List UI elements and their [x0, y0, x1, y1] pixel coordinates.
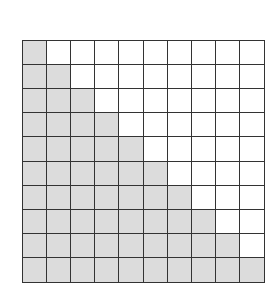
grid-cell-shaded	[47, 113, 71, 137]
hundred-grid	[22, 40, 265, 283]
grid-cell-shaded	[23, 258, 47, 282]
grid-cell-shaded	[95, 113, 119, 137]
grid-cell-empty	[216, 41, 240, 65]
grid-cell-empty	[240, 41, 264, 65]
grid-cell-shaded	[119, 137, 143, 161]
grid-cell-shaded	[23, 89, 47, 113]
grid-cell-empty	[71, 65, 95, 89]
grid-cell-empty	[216, 89, 240, 113]
grid-cell-empty	[168, 89, 192, 113]
grid-cell-shaded	[47, 65, 71, 89]
grid-cell-shaded	[119, 258, 143, 282]
grid-cell-shaded	[144, 234, 168, 258]
grid-cell-shaded	[119, 186, 143, 210]
grid-cell-empty	[168, 65, 192, 89]
grid-cell-shaded	[95, 258, 119, 282]
grid-cell-empty	[192, 137, 216, 161]
grid-cell-empty	[240, 186, 264, 210]
grid-cell-empty	[192, 186, 216, 210]
grid-cell-empty	[240, 89, 264, 113]
grid-cell-shaded	[168, 234, 192, 258]
grid-cell-shaded	[47, 210, 71, 234]
grid-cell-shaded	[71, 162, 95, 186]
grid-cell-empty	[71, 41, 95, 65]
grid-cell-empty	[119, 65, 143, 89]
grid-cell-shaded	[192, 210, 216, 234]
grid-cell-empty	[95, 41, 119, 65]
grid-cell-shaded	[47, 234, 71, 258]
grid-cell-empty	[216, 210, 240, 234]
grid-cell-shaded	[95, 186, 119, 210]
grid-cell-shaded	[71, 89, 95, 113]
grid-cell-shaded	[71, 113, 95, 137]
grid-cell-shaded	[47, 137, 71, 161]
grid-cell-empty	[192, 113, 216, 137]
grid-cell-empty	[144, 89, 168, 113]
grid-cell-shaded	[144, 258, 168, 282]
grid-cell-empty	[192, 41, 216, 65]
grid-cell-shaded	[192, 234, 216, 258]
grid-cell-empty	[240, 210, 264, 234]
grid-cell-empty	[168, 113, 192, 137]
grid-cell-empty	[216, 186, 240, 210]
grid-cell-empty	[192, 89, 216, 113]
grid-cell-shaded	[240, 258, 264, 282]
grid-cell-shaded	[47, 162, 71, 186]
grid-cell-shaded	[23, 186, 47, 210]
grid-cell-empty	[168, 41, 192, 65]
grid-cell-empty	[240, 162, 264, 186]
grid-cell-shaded	[168, 186, 192, 210]
grid-cell-shaded	[71, 210, 95, 234]
grid-cell-shaded	[144, 210, 168, 234]
grid-cell-empty	[47, 41, 71, 65]
grid-cell-empty	[216, 137, 240, 161]
grid-cell-shaded	[119, 162, 143, 186]
grid-cell-shaded	[23, 234, 47, 258]
grid-cell-shaded	[95, 162, 119, 186]
grid-cell-empty	[119, 113, 143, 137]
grid-cell-shaded	[168, 258, 192, 282]
grid-cell-shaded	[119, 234, 143, 258]
grid-cell-shaded	[168, 210, 192, 234]
grid-cell-empty	[216, 113, 240, 137]
grid-cell-empty	[240, 65, 264, 89]
grid-cell-shaded	[23, 65, 47, 89]
grid-cell-shaded	[216, 258, 240, 282]
grid-cell-shaded	[192, 258, 216, 282]
grid-cell-shaded	[144, 186, 168, 210]
grid-cell-shaded	[71, 186, 95, 210]
grid-cell-empty	[216, 162, 240, 186]
grid-cell-shaded	[95, 137, 119, 161]
grid-cell-shaded	[47, 186, 71, 210]
grid-cell-shaded	[23, 137, 47, 161]
grid-cell-empty	[119, 89, 143, 113]
grid-cell-shaded	[71, 234, 95, 258]
grid-cell-empty	[216, 65, 240, 89]
grid-cell-shaded	[95, 210, 119, 234]
grid-cell-empty	[192, 65, 216, 89]
grid-cell-shaded	[23, 41, 47, 65]
grid-cell-shaded	[23, 113, 47, 137]
grid-cell-shaded	[23, 210, 47, 234]
grid-cell-shaded	[47, 258, 71, 282]
grid-cell-empty	[95, 65, 119, 89]
grid-cell-empty	[144, 41, 168, 65]
grid-cell-shaded	[119, 210, 143, 234]
grid-cell-empty	[168, 137, 192, 161]
grid-cell-shaded	[47, 89, 71, 113]
grid-cell-empty	[144, 65, 168, 89]
grid-cell-empty	[240, 113, 264, 137]
grid-cell-empty	[240, 234, 264, 258]
grid-cell-empty	[119, 41, 143, 65]
grid-cell-shaded	[71, 258, 95, 282]
grid-cell-shaded	[144, 162, 168, 186]
grid-cell-shaded	[95, 234, 119, 258]
grid-cell-empty	[240, 137, 264, 161]
grid-cell-empty	[95, 89, 119, 113]
grid-cell-shaded	[71, 137, 95, 161]
grid-cell-empty	[192, 162, 216, 186]
grid-cell-empty	[168, 162, 192, 186]
grid-cell-shaded	[216, 234, 240, 258]
grid-cell-shaded	[23, 162, 47, 186]
grid-cell-empty	[144, 113, 168, 137]
